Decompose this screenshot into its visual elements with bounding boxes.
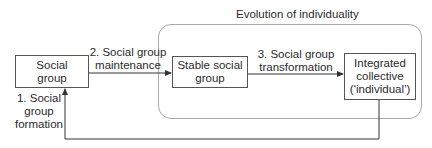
node-social-group: Social group bbox=[15, 55, 89, 88]
node-label-line: Integrated bbox=[350, 57, 411, 70]
edge-label-line: transformation bbox=[252, 61, 340, 74]
node-integrated-collective: Integrated collective (‘individual’) bbox=[344, 53, 416, 100]
edge-label-line: 2. Social group bbox=[88, 46, 168, 59]
edge-label-line: 1. Social bbox=[14, 92, 64, 105]
edge-label-line: formation bbox=[14, 118, 64, 131]
edge-label-transformation: 3. Social group transformation bbox=[252, 48, 340, 74]
edge-formation-arrow bbox=[65, 89, 379, 139]
node-label-line: Stable social bbox=[177, 59, 242, 72]
node-stable-social-group: Stable social group bbox=[172, 56, 248, 88]
node-label-line: group bbox=[36, 72, 67, 85]
node-label-line: group bbox=[177, 72, 242, 85]
edge-label-line: maintenance bbox=[88, 59, 168, 72]
edge-label-maintenance: 2. Social group maintenance bbox=[88, 46, 168, 72]
edge-label-formation: 1. Social group formation bbox=[14, 92, 64, 131]
edge-label-line: group bbox=[14, 105, 64, 118]
edge-label-line: 3. Social group bbox=[252, 48, 340, 61]
node-label-line: Social bbox=[36, 59, 67, 72]
node-label-line: (‘individual’) bbox=[350, 83, 411, 96]
node-label-line: collective bbox=[350, 70, 411, 83]
